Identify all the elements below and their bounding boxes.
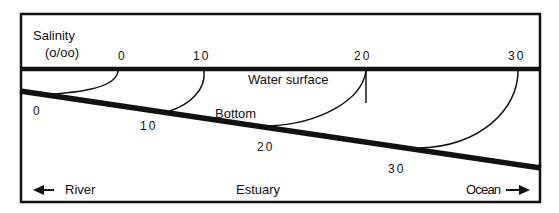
- bottom-value-30: 30: [388, 162, 405, 176]
- isohaline-0: [44, 71, 118, 95]
- bottom-value-10: 10: [140, 119, 157, 133]
- arrow-left-icon: [33, 185, 54, 195]
- surface-value-0: 0: [118, 49, 127, 63]
- diagram-frame: [21, 14, 540, 202]
- bottom-value-0: 0: [33, 104, 42, 118]
- bottom-value-20: 20: [257, 140, 274, 154]
- bottom-label: Bottom: [215, 106, 256, 121]
- water-surface-label: Water surface: [248, 72, 328, 87]
- river-label: River: [65, 182, 96, 197]
- salinity-unit: (o/oo): [45, 45, 79, 60]
- estuary-label: Estuary: [236, 182, 281, 197]
- salinity-label: Salinity: [33, 28, 75, 43]
- estuary-salinity-diagram: Salinity (o/oo) 0 10 20 30 Water surface…: [0, 0, 559, 213]
- ocean-label: Ocean: [466, 182, 501, 197]
- bottom-line: [20, 91, 541, 168]
- isohaline-30: [420, 71, 518, 148]
- surface-value-20: 20: [354, 49, 371, 63]
- surface-value-10: 10: [193, 49, 210, 63]
- surface-value-30: 30: [508, 49, 525, 63]
- isohaline-10: [170, 71, 204, 111]
- arrow-right-icon: [506, 185, 530, 195]
